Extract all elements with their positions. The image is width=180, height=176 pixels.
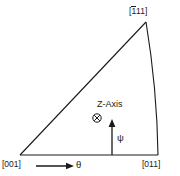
vertex-label-011: [011] xyxy=(142,160,160,169)
theta-label: θ xyxy=(76,160,81,170)
stereographic-triangle-figure: [111] [001] [011] Z-Axis ψ θ xyxy=(0,0,180,176)
remaining-digits: 11 xyxy=(136,6,145,16)
edge-111-to-011 xyxy=(146,22,158,155)
psi-arrow-icon xyxy=(109,119,116,155)
circled-x-icon xyxy=(93,114,101,122)
vertex-label-111: [111] xyxy=(129,5,147,16)
z-axis-label: Z-Axis xyxy=(97,100,123,109)
edge-001-to-111 xyxy=(20,22,146,155)
psi-label: ψ xyxy=(117,133,124,143)
triangle-graphic xyxy=(0,0,180,176)
vertex-label-001: [001] xyxy=(2,160,21,169)
bracket-close: ] xyxy=(145,6,147,16)
theta-arrow-icon xyxy=(36,163,74,169)
